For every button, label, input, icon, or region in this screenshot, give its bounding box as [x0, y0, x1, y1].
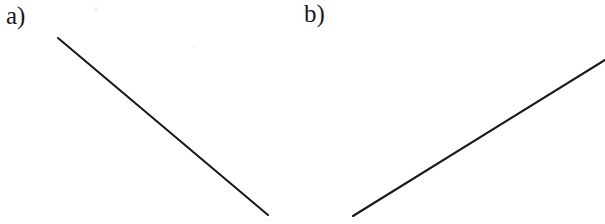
line-segment-b — [353, 60, 605, 216]
figure-panel-b: b) — [302, 0, 605, 224]
figure-panel-a: a) — [0, 0, 303, 224]
panel-a-plot-area — [0, 0, 303, 224]
line-segment-a — [58, 38, 268, 215]
figure-root: a) b) — [0, 0, 605, 224]
panel-b-plot-area — [302, 0, 605, 224]
